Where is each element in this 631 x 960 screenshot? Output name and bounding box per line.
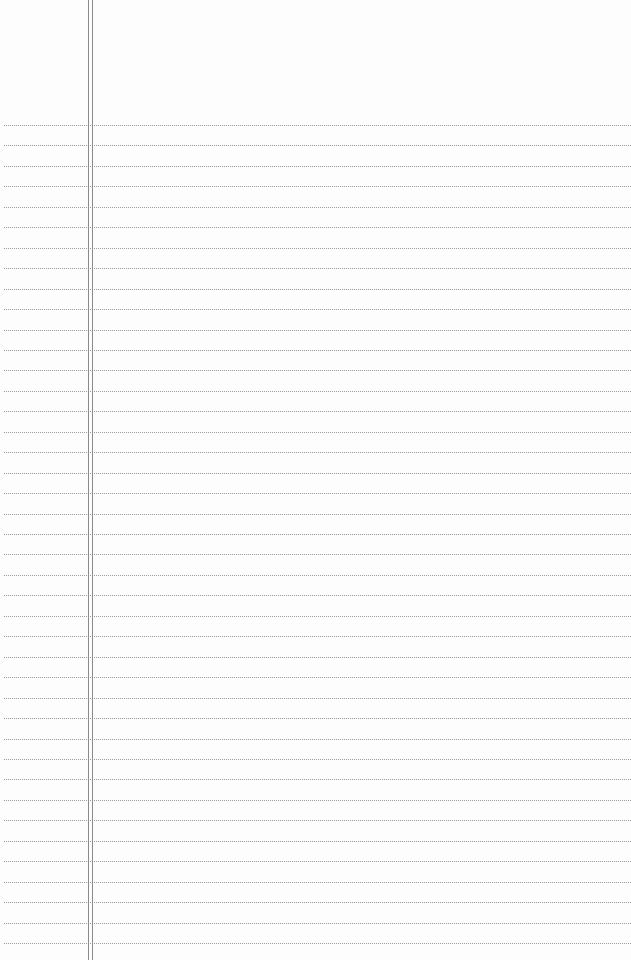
margin-line (88, 0, 89, 960)
ruled-line (4, 432, 631, 433)
margin-line (92, 0, 93, 960)
ruled-line (4, 575, 631, 576)
ruled-line (4, 309, 631, 310)
ruled-line (4, 514, 631, 515)
ruled-line (4, 350, 631, 351)
ruled-line (4, 698, 631, 699)
ruled-line (4, 841, 631, 842)
ruled-line (4, 554, 631, 555)
ruled-line (4, 616, 631, 617)
ruled-line (4, 289, 631, 290)
ruled-line (4, 534, 631, 535)
ruled-line (4, 411, 631, 412)
ruled-line (4, 657, 631, 658)
ruled-line (4, 493, 631, 494)
ruled-line (4, 391, 631, 392)
ruled-line (4, 595, 631, 596)
ruled-line (4, 902, 631, 903)
ruled-line (4, 861, 631, 862)
ruled-line (4, 227, 631, 228)
ruled-line (4, 943, 631, 944)
ruled-line (4, 820, 631, 821)
ruled-line (4, 779, 631, 780)
ruled-line (4, 268, 631, 269)
ruled-line (4, 759, 631, 760)
ruled-line (4, 370, 631, 371)
ruled-line (4, 166, 631, 167)
ruled-line (4, 145, 631, 146)
ruled-line (4, 452, 631, 453)
ruled-line (4, 923, 631, 924)
ruled-line (4, 186, 631, 187)
ruled-line (4, 125, 631, 126)
ruled-line (4, 800, 631, 801)
ruled-line (4, 248, 631, 249)
ruled-line (4, 207, 631, 208)
ruled-line (4, 718, 631, 719)
ruled-line (4, 677, 631, 678)
lined-paper (0, 0, 631, 960)
ruled-line (4, 330, 631, 331)
ruled-line (4, 636, 631, 637)
ruled-line (4, 473, 631, 474)
ruled-line (4, 739, 631, 740)
ruled-line (4, 882, 631, 883)
